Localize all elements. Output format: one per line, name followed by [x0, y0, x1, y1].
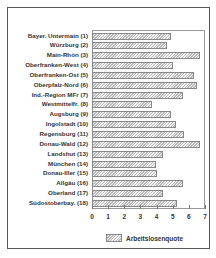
bar: [92, 151, 163, 158]
tick-label: 2: [119, 213, 129, 220]
tick-label: 6: [184, 213, 194, 220]
bar: [92, 190, 163, 197]
tick-mark: [157, 205, 158, 209]
category-label: Oberland (17): [0, 188, 88, 198]
tick-mark: [173, 205, 174, 209]
bar: [92, 131, 184, 138]
category-label: Ingolstadt (10): [0, 119, 88, 129]
tick-mark: [108, 205, 109, 209]
tick-label: 7: [200, 213, 210, 220]
tick-mark: [92, 205, 93, 209]
category-label: Südostoberbay. (18): [0, 198, 88, 208]
category-label: Allgäu (16): [0, 178, 88, 188]
bar: [92, 52, 200, 59]
category-label: Bayer. Untermain (1): [0, 31, 88, 41]
bar: [92, 161, 156, 168]
bar: [92, 72, 194, 79]
bar: [92, 170, 157, 177]
legend-label: Arbeitslosenquote: [126, 235, 183, 242]
tick-label: 1: [103, 213, 113, 220]
category-label: Oberfranken-West (4): [0, 60, 88, 70]
category-label: Main-Rhön (3): [0, 50, 88, 60]
bar: [92, 111, 171, 118]
bar: [92, 101, 152, 108]
bar: [92, 82, 197, 89]
category-label: Landshut (13): [0, 149, 88, 159]
bar: [92, 92, 183, 99]
category-label: Oberfranken-Ost (5): [0, 70, 88, 80]
bar: [92, 180, 183, 187]
tick-mark: [140, 205, 141, 209]
tick-mark: [189, 205, 190, 209]
bar: [92, 42, 167, 49]
tick-label: 5: [168, 213, 178, 220]
category-label: Würzburg (2): [0, 40, 88, 50]
tick-mark: [124, 205, 125, 209]
bar: [92, 200, 177, 207]
category-label: Oberpfalz-Nord (6): [0, 80, 88, 90]
category-label: Ind.-Region MFr (7): [0, 90, 88, 100]
category-label: Donau-Iller (15): [0, 168, 88, 178]
category-label: München (14): [0, 159, 88, 169]
category-label: Westmittelfr. (8): [0, 99, 88, 109]
category-label: Regensburg (11): [0, 129, 88, 139]
legend: Arbeitslosenquote: [106, 234, 183, 242]
bar: [92, 62, 173, 69]
tick-label: 3: [135, 213, 145, 220]
bar: [92, 33, 171, 40]
tick-mark: [205, 205, 206, 209]
legend-swatch-icon: [106, 234, 122, 242]
category-label: Augsburg (9): [0, 109, 88, 119]
tick-label: 4: [152, 213, 162, 220]
bar: [92, 141, 200, 148]
bar: [92, 121, 176, 128]
category-label: Donau-Wald (12): [0, 139, 88, 149]
tick-label: 0: [87, 213, 97, 220]
